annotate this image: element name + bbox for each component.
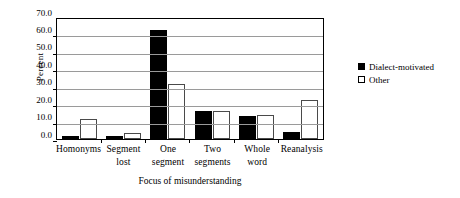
bar-other[interactable] xyxy=(80,119,97,139)
y-axis-tick-label: 0.0 xyxy=(14,131,52,140)
bar-chart-figure: Percent 70.060.050.040.030.020.010.00.0 … xyxy=(0,0,460,198)
legend-swatch-icon xyxy=(358,76,365,83)
x-axis-label-line: Whole xyxy=(235,143,280,156)
x-axis-category-labels: HomonymsSegmentlostOnesegmentTwosegments… xyxy=(56,143,324,179)
x-axis-category-label: Wholeword xyxy=(235,143,280,179)
bar-dialect-motivated[interactable] xyxy=(195,111,212,139)
x-axis-label-line: One xyxy=(146,143,191,156)
y-axis-tick-label: 10.0 xyxy=(14,113,52,122)
plot-area xyxy=(56,18,324,140)
y-axis-tick-mark xyxy=(53,36,57,37)
x-axis-label-line: Segment xyxy=(101,143,146,156)
y-axis-tick-label: 60.0 xyxy=(14,26,52,35)
x-axis-label-line: lost xyxy=(101,156,146,169)
x-axis-title: Focus of misunderstanding xyxy=(56,176,324,186)
x-axis-category-label: Twosegments xyxy=(190,143,235,179)
x-axis-label-line: word xyxy=(235,156,280,169)
x-axis-category-label: Homonyms xyxy=(56,143,101,179)
gridline xyxy=(57,106,323,107)
y-axis-tick-mark xyxy=(53,124,57,125)
y-axis-tick-label: 30.0 xyxy=(14,78,52,87)
x-axis-category-label: Segmentlost xyxy=(101,143,146,179)
x-axis-category-label: Onesegment xyxy=(146,143,191,179)
gridline xyxy=(57,89,323,90)
bar-other[interactable] xyxy=(213,111,230,139)
gridline xyxy=(57,54,323,55)
y-axis-tick-label: 50.0 xyxy=(14,43,52,52)
y-axis-tick-label: 20.0 xyxy=(14,96,52,105)
bar-dialect-motivated[interactable] xyxy=(106,136,123,139)
gridline xyxy=(57,124,323,125)
legend-item[interactable]: Dialect-motivated xyxy=(358,60,458,73)
bar-dialect-motivated[interactable] xyxy=(239,116,256,139)
y-axis-tick-mark xyxy=(53,106,57,107)
y-axis-tick-mark xyxy=(53,141,57,142)
y-axis-tick-label: 70.0 xyxy=(14,9,52,18)
gridline xyxy=(57,71,323,72)
y-axis-tick-label: 40.0 xyxy=(14,61,52,70)
x-axis-label-line: segments xyxy=(190,156,235,169)
x-axis-label-line: segment xyxy=(146,156,191,169)
gridline xyxy=(57,36,323,37)
legend-item-label: Dialect-motivated xyxy=(369,62,434,72)
bar-other[interactable] xyxy=(257,115,274,139)
legend-item[interactable]: Other xyxy=(358,73,458,86)
y-axis-tick-labels: 70.060.050.040.030.020.010.00.0 xyxy=(14,13,52,141)
x-axis-label-line: Homonyms xyxy=(56,143,101,156)
y-axis-tick-mark xyxy=(53,54,57,55)
x-axis-label-line: Two xyxy=(190,143,235,156)
bar-dialect-motivated[interactable] xyxy=(62,136,79,139)
bar-dialect-motivated[interactable] xyxy=(283,132,300,139)
chart-legend: Dialect-motivatedOther xyxy=(358,60,458,86)
bar-other[interactable] xyxy=(168,84,185,139)
legend-item-label: Other xyxy=(369,75,390,85)
x-axis-label-line: Reanalysis xyxy=(279,143,324,156)
y-axis-tick-mark xyxy=(53,89,57,90)
legend-swatch-icon xyxy=(358,63,365,70)
bar-other[interactable] xyxy=(124,133,141,139)
x-axis-category-label: Reanalysis xyxy=(279,143,324,179)
y-axis-tick-mark xyxy=(53,71,57,72)
